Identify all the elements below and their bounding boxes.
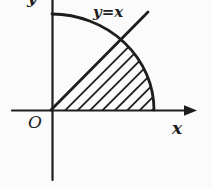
line-equation-label: y=x	[92, 3, 124, 21]
origin-label: O	[28, 112, 42, 132]
figure-canvas: y y=x O x	[0, 0, 212, 189]
y-axis-label: y	[26, 0, 38, 7]
coordinate-diagram: y y=x O x	[0, 0, 212, 189]
x-axis-label: x	[171, 118, 183, 138]
